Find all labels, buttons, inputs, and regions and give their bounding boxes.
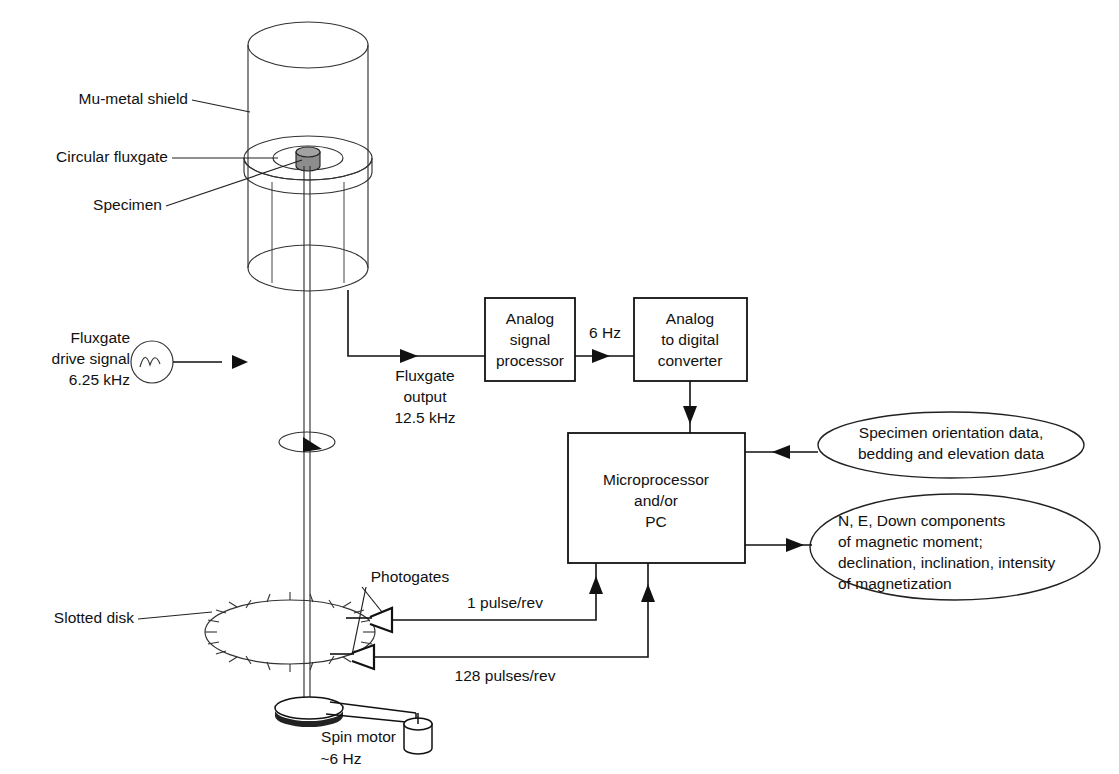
magnetic-moment-output-ellipse: N, E, Down components of magnetic moment… [810,494,1100,600]
microprocessor-line1: Microprocessor [603,471,709,488]
slotted-disk-slots [205,592,375,672]
analog-signal-processor-line2: signal [510,331,551,348]
fluxgate-drive-label-line1: Fluxgate [71,329,130,346]
diagram-canvas: Mu-metal shield Circular fluxgate Specim… [0,0,1119,774]
microprocessor-line3: PC [645,513,667,530]
fluxgate-drive-signal-source: Fluxgate drive signal 6.25 kHz [52,329,248,388]
fluxgate-output-label-line3: 12.5 kHz [394,409,455,426]
adc-to-microprocessor-wire [683,381,697,433]
fluxgate-drive-label-line3: 6.25 kHz [69,371,130,388]
output-data-line1: N, E, Down components [838,512,1005,529]
label-leaders [138,100,382,655]
output-data-line2: of magnetic moment; [838,533,983,550]
orientation-data-to-microprocessor-wire [745,445,818,459]
mu-metal-shield-label: Mu-metal shield [79,90,188,107]
specimen-shaft [304,166,310,700]
specimen-label: Specimen [93,196,162,213]
microprocessor-line2: and/or [634,492,678,509]
analog-signal-processor-line3: processor [496,352,564,369]
analog-to-digital-converter-box[interactable]: Analog to digital converter [634,298,747,381]
specimen-cylinder [296,147,320,171]
fluxgate-output-wire [348,290,485,363]
adc-line1: Analog [666,310,714,327]
photogates-label: Photogates [371,568,450,585]
128-pulses-per-rev-label: 128 pulses/rev [455,667,556,684]
sine-wave-source-icon [131,341,173,383]
six-hz-link: 6 Hz [575,324,634,363]
spinner-magnetometer-diagram: Mu-metal shield Circular fluxgate Specim… [0,0,1119,774]
output-data-line4: of magnetization [838,575,952,592]
fluxgate-output-label-line1: Fluxgate [395,367,454,384]
microprocessor-to-output-wire [745,538,812,552]
fluxgate-drive-label-line2: drive signal [52,350,130,367]
spin-motor-label-line2: ~6 Hz [321,750,362,767]
six-hz-label: 6 Hz [589,324,621,341]
analog-signal-processor-box[interactable]: Analog signal processor [485,298,575,381]
one-pulse-per-rev-label: 1 pulse/rev [467,594,543,611]
motor-cylinder-icon [404,713,432,754]
spin-motor-label-line1: Spin motor [321,728,396,745]
fluxgate-output-label-line2: output [403,388,447,405]
spin-motor-assembly: Spin motor ~6 Hz [275,697,432,767]
slotted-disk-label: Slotted disk [54,609,134,626]
adc-line2: to digital [661,331,719,348]
microprocessor-box[interactable]: Microprocessor and/or PC [568,433,745,563]
adc-line3: converter [658,352,723,369]
circular-fluxgate-label: Circular fluxgate [56,148,168,165]
orientation-data-line2: bedding and elevation data [858,445,1045,462]
output-data-line3: declination, inclination, intensity [838,554,1055,571]
rotation-arrow-icon [279,432,335,452]
photogate-bracket-lower-icon [330,645,374,669]
specimen-orientation-data-ellipse: Specimen orientation data, bedding and e… [818,412,1084,478]
orientation-data-line1: Specimen orientation data, [859,424,1043,441]
analog-signal-processor-line1: Analog [506,310,554,327]
slotted-disk [205,592,375,672]
